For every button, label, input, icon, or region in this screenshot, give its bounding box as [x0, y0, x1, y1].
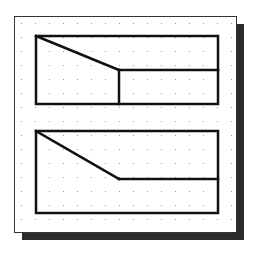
diagram-canvas	[0, 0, 256, 258]
grid-sheet	[15, 17, 237, 233]
